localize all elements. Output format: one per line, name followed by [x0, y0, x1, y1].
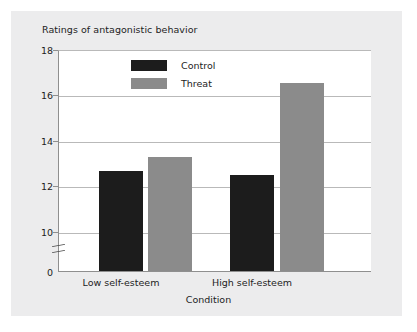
y-axis-tick-labels: 18 16 14 12 10 0 — [20, 0, 53, 332]
ytick-mark-18 — [53, 50, 58, 51]
legend-label-control: Control — [181, 60, 215, 71]
xtick-label-high-self-esteem: High self-esteem — [212, 277, 292, 288]
ytick-label-10: 10 — [41, 227, 53, 238]
ytick-label-zero: 0 — [47, 267, 53, 278]
bar-high-self-esteem-control[interactable] — [230, 175, 274, 271]
ytick-mark-14 — [53, 141, 58, 142]
chart-figure: Ratings of antagonistic behavior 18 16 1… — [0, 0, 417, 332]
ytick-mark-16 — [53, 95, 58, 96]
ytick-label-16: 16 — [41, 90, 53, 101]
bar-low-self-esteem-control[interactable] — [99, 171, 143, 271]
ytick-label-18: 18 — [41, 45, 53, 56]
legend-swatch-control-icon — [131, 60, 167, 71]
ytick-label-14: 14 — [41, 136, 53, 147]
legend-label-threat: Threat — [181, 78, 212, 89]
chart-legend: Control Threat — [131, 56, 261, 92]
ytick-mark-10 — [53, 232, 58, 233]
x-axis-title: Condition — [0, 294, 417, 305]
legend-entry-control[interactable]: Control — [131, 56, 261, 74]
ytick-label-12: 12 — [41, 181, 53, 192]
xtick-label-low-self-esteem: Low self-esteem — [83, 277, 160, 288]
y-axis-break-icon — [52, 243, 65, 257]
legend-swatch-threat-icon — [131, 78, 167, 89]
ytick-mark-12 — [53, 186, 58, 187]
bar-high-self-esteem-threat[interactable] — [280, 83, 324, 271]
chart-title: Ratings of antagonistic behavior — [42, 24, 198, 35]
bar-low-self-esteem-threat[interactable] — [148, 157, 192, 271]
x-axis-line — [58, 271, 371, 272]
legend-entry-threat[interactable]: Threat — [131, 74, 261, 92]
